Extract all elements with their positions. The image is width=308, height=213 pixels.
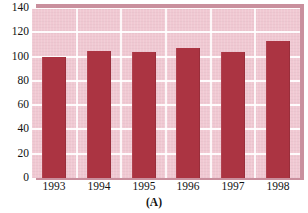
x-tick-label-1994: 1994 bbox=[74, 181, 124, 193]
bar-1997 bbox=[221, 52, 245, 178]
figure-caption: (A) bbox=[0, 196, 308, 208]
gridline-x-5 bbox=[254, 8, 256, 178]
x-tick-label-1993: 1993 bbox=[29, 181, 79, 193]
y-tick-label-0: 0 bbox=[0, 172, 29, 184]
x-tick-label-1995: 1995 bbox=[119, 181, 169, 193]
x-tick-label-1996: 1996 bbox=[163, 181, 213, 193]
y-tick-label-20: 20 bbox=[0, 148, 29, 160]
bar-1993 bbox=[42, 57, 66, 178]
y-axis-tick-labels: 020406080100120140 bbox=[0, 0, 29, 213]
x-tick-label-1997: 1997 bbox=[208, 181, 258, 193]
bar-1995 bbox=[132, 52, 156, 178]
plot-area bbox=[32, 8, 300, 178]
y-tick-label-40: 40 bbox=[0, 123, 29, 135]
gridline-x-4 bbox=[210, 8, 212, 178]
y-tick-label-120: 120 bbox=[0, 26, 29, 38]
bar-chart-figure: 020406080100120140 199319941995199619971… bbox=[0, 0, 308, 213]
gridline-x-3 bbox=[165, 8, 167, 178]
gridline-x-2 bbox=[120, 8, 122, 178]
bar-1998 bbox=[266, 41, 290, 178]
x-tick-label-1998: 1998 bbox=[253, 181, 303, 193]
y-tick-label-100: 100 bbox=[0, 51, 29, 63]
y-tick-label-140: 140 bbox=[0, 2, 29, 14]
y-tick-label-60: 60 bbox=[0, 99, 29, 111]
gridline-x-1 bbox=[76, 8, 78, 178]
bar-1996 bbox=[176, 48, 200, 178]
y-tick-label-80: 80 bbox=[0, 75, 29, 87]
bar-1994 bbox=[87, 51, 111, 179]
